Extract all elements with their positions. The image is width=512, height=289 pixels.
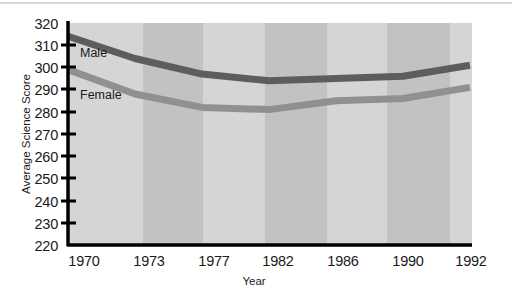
y-tick-label-220: 220	[34, 238, 58, 254]
y-axis-tick-labels: 320 310 300 290 280 270 260 250 240 230 …	[34, 16, 58, 254]
series-label-female: Female	[80, 88, 122, 102]
y-tick-label-320: 320	[34, 16, 58, 32]
x-tick-label-1973: 1973	[133, 253, 165, 269]
band-2	[143, 23, 203, 245]
y-tick-label-280: 280	[34, 105, 58, 121]
series-label-male: Male	[80, 46, 107, 60]
x-axis-title: Year	[242, 275, 265, 287]
x-tick-label-1990: 1990	[392, 253, 424, 269]
band-6	[387, 23, 450, 245]
y-tick-label-290: 290	[34, 82, 58, 98]
x-axis-tick-labels: 1970 1973 1977 1982 1986 1990 1992	[68, 253, 487, 269]
band-4	[265, 23, 327, 245]
y-tick-label-270: 270	[34, 127, 58, 143]
band-5	[327, 23, 387, 245]
x-tick-label-1977: 1977	[198, 253, 230, 269]
y-tick-label-240: 240	[34, 194, 58, 210]
y-tick-label-310: 310	[34, 38, 58, 54]
x-tick-label-1982: 1982	[262, 253, 294, 269]
chart-figure: Male Female 320 310 300 290 280 270	[0, 0, 512, 289]
x-tick-label-1992: 1992	[455, 253, 487, 269]
y-tick-label-250: 250	[34, 171, 58, 187]
band-3	[203, 23, 265, 245]
x-tick-label-1986: 1986	[327, 253, 359, 269]
y-tick-label-300: 300	[34, 60, 58, 76]
y-axis-title: Average Science Score	[20, 74, 32, 194]
line-chart-svg: Male Female 320 310 300 290 280 270	[0, 0, 512, 289]
y-tick-label-230: 230	[34, 216, 58, 232]
y-tick-label-260: 260	[34, 149, 58, 165]
band-7	[450, 23, 472, 245]
x-tick-label-1970: 1970	[68, 253, 100, 269]
